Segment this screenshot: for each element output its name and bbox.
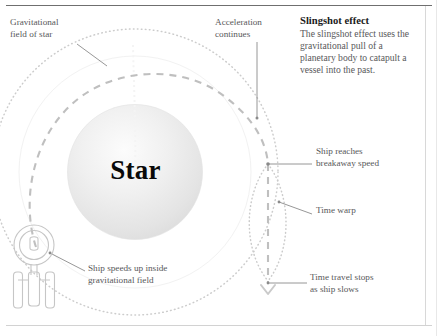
annotation-time-warp: Time warp — [316, 205, 416, 217]
annotation-ship-speeds-up: Ship speeds up inside gravitational fiel… — [88, 263, 238, 286]
starship-nacelle-left — [14, 272, 23, 308]
slingshot-effect-panel: Slingshot effect The slingshot effect us… — [300, 14, 416, 76]
starship-saucer-inner — [20, 231, 49, 260]
leader-endpoint-ship-speeds-up — [49, 252, 52, 255]
leader-endpoint-time-warp — [278, 201, 281, 204]
annotation-gravitational-field: Gravitational field of star — [10, 17, 106, 40]
panel-title: Slingshot effect — [300, 14, 416, 27]
slingshot-effect-diagram: Star Gravitational field of star Acceler… — [0, 0, 438, 336]
leader-endpoint-time-stops — [267, 282, 270, 285]
annotation-breakaway-speed: Ship reaches breakaway speed — [316, 146, 422, 169]
annotation-acceleration-continues: Acceleration continues — [215, 17, 287, 40]
arrow-down-chevron-icon — [261, 285, 275, 294]
star-label: Star — [0, 155, 271, 186]
panel-body: The slingshot effect uses the gravitatio… — [300, 28, 416, 76]
annotation-time-travel-stops: Time travel stops as ship slows — [310, 272, 422, 295]
leader-line-ship-speeds-up — [50, 253, 85, 271]
leader-line-gravitational-field — [77, 44, 107, 66]
starship-icon — [14, 225, 55, 308]
leader-line-time-warp — [279, 202, 312, 214]
starship-hull — [29, 272, 40, 306]
leader-endpoint-acceleration — [256, 117, 259, 120]
starship-nacelle-right — [46, 272, 55, 308]
